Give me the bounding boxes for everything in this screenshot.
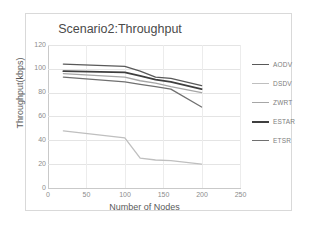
legend-item-zwrt[interactable]: ZWRT: [252, 93, 312, 112]
legend-label-etsr: ETSR: [273, 137, 291, 144]
y-tick-0: 0: [20, 184, 46, 191]
x-tick-50: 50: [75, 191, 99, 198]
legend-item-dsdv[interactable]: DSDV: [252, 74, 312, 93]
legend-label-dsdv: DSDV: [273, 80, 292, 87]
legend-swatch-estar: [252, 121, 269, 123]
legend-item-estar[interactable]: ESTAR: [252, 112, 312, 131]
x-tick-250: 250: [229, 191, 253, 198]
series-lines: [48, 45, 240, 188]
legend-swatch-etsr: [252, 140, 269, 141]
legend-label-estar: ESTAR: [273, 118, 295, 125]
x-tick-100: 100: [113, 191, 137, 198]
legend-item-etsr[interactable]: ETSR: [252, 131, 312, 150]
legend-swatch-zwrt: [252, 102, 269, 103]
legend-swatch-dsdv: [252, 83, 269, 84]
legend-item-aodv[interactable]: AODV: [252, 55, 312, 74]
x-axis-label: Number of Nodes: [48, 202, 241, 212]
chart-legend: AODV DSDV ZWRT ESTAR ETSR: [252, 55, 312, 150]
legend-label-aodv: AODV: [273, 61, 292, 68]
x-tick-150: 150: [152, 191, 176, 198]
chart-container: Scenario2:Throughput 120 100 80 60 40 20…: [0, 0, 318, 230]
legend-swatch-aodv: [252, 64, 269, 65]
x-axis-line: [48, 188, 241, 189]
y-axis-label: Throughput(kbps): [15, 38, 25, 148]
legend-label-zwrt: ZWRT: [273, 99, 292, 106]
plot-area: [48, 45, 240, 188]
series-line-etsr: [63, 77, 201, 107]
x-tick-200: 200: [190, 191, 214, 198]
x-tick-0: 0: [36, 191, 60, 198]
y-tick-20: 20: [20, 160, 46, 167]
series-line-dsdv: [63, 131, 201, 164]
